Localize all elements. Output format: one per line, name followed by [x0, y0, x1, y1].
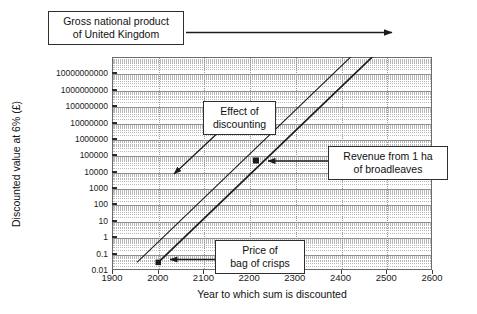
x-tick-mark [341, 270, 342, 274]
grid-line-minor [113, 209, 431, 210]
grid-line-minor [113, 69, 431, 70]
y-tick-label: 1000 [89, 184, 108, 193]
x-axis-title: Year to which sum is discounted [112, 288, 432, 300]
x-tick-mark [432, 270, 433, 274]
y-tick-mark [112, 89, 117, 91]
y-tick-mark [112, 220, 117, 222]
grid-line-vertical [296, 58, 297, 269]
grid-line-minor [113, 135, 431, 136]
x-tick-mark [203, 270, 204, 274]
y-tick-mark [112, 253, 117, 255]
y-tick-label: 10000 [84, 167, 108, 176]
y-tick-label: 10000000000 [56, 69, 108, 78]
x-axis-tick-labels: 19002000210022002300240025002600 [112, 272, 432, 286]
grid-line-minor [113, 59, 431, 60]
grid-line-major [113, 205, 431, 206]
grid-line-minor [113, 63, 431, 64]
grid-line-major [113, 189, 431, 190]
y-tick-mark [112, 105, 117, 107]
callout-effect-line2: discounting [210, 118, 269, 131]
grid-line-minor [113, 96, 431, 97]
grid-line-minor [113, 184, 431, 185]
grid-line-minor [113, 65, 431, 66]
y-tick-label: 1 [103, 233, 108, 242]
grid-line-minor [113, 217, 431, 218]
y-tick-mark [112, 171, 117, 173]
y-tick-label: 100000 [80, 151, 108, 160]
y-tick-label: 100 [94, 200, 108, 209]
grid-line-minor [113, 181, 431, 182]
grid-line-minor [113, 86, 431, 87]
callout-effect-line1: Effect of [210, 105, 269, 118]
y-tick-mark [112, 138, 117, 140]
grid-line-minor [113, 228, 431, 229]
y-tick-mark [112, 203, 117, 205]
callout-revenue-line2: of broadleaves [335, 163, 441, 176]
grid-line-minor [113, 233, 431, 234]
grid-line-vertical [250, 58, 251, 269]
y-tick-label: 1000000 [75, 134, 108, 143]
callout-crisps-line2: bag of crisps [222, 257, 298, 270]
grid-line-major [113, 74, 431, 75]
grid-line-minor [113, 194, 431, 195]
y-tick-label: 1000000000 [61, 85, 108, 94]
x-tick-mark [112, 270, 113, 274]
y-axis-tick-labels: 1000000000010000000001000000001000000010… [0, 57, 108, 270]
y-tick-label: 100000000 [65, 102, 108, 111]
callout-gross-national-product[interactable]: Gross national product of United Kingdom [48, 11, 184, 45]
grid-line-minor [113, 208, 431, 209]
grid-line-minor [113, 67, 431, 68]
grid-line-vertical [159, 58, 160, 269]
grid-line-minor [113, 62, 431, 63]
grid-line-minor [113, 198, 431, 199]
grid-line-minor [113, 83, 431, 84]
y-tick-mark [112, 154, 117, 156]
grid-line-minor [113, 97, 431, 98]
callout-crisps-line1: Price of [222, 244, 298, 257]
callout-price-bag-of-crisps[interactable]: Price of bag of crisps [215, 240, 305, 274]
grid-line-minor [113, 210, 431, 211]
grid-line-major [113, 91, 431, 92]
callout-gnp-line2: of United Kingdom [55, 28, 177, 41]
chart-figure: Discounted value at 6% (£) 1000000000010… [0, 0, 477, 314]
callout-revenue-broadleaves[interactable]: Revenue from 1 ha of broadleaves [328, 146, 448, 180]
grid-line-minor [113, 212, 431, 213]
grid-line-minor [113, 93, 431, 94]
grid-line-minor [113, 94, 431, 95]
grid-line-minor [113, 225, 431, 226]
grid-line-minor [113, 144, 431, 145]
callout-gnp-line1: Gross national product [55, 15, 177, 28]
y-tick-label: 10000000 [70, 118, 108, 127]
y-tick-mark [112, 72, 117, 74]
y-tick-label: 10 [99, 216, 108, 225]
grid-line-minor [113, 193, 431, 194]
grid-line-minor [113, 196, 431, 197]
y-tick-mark [112, 122, 117, 124]
grid-line-minor [113, 61, 431, 62]
y-tick-label: 0.1 [96, 249, 108, 258]
grid-line-minor [113, 81, 431, 82]
grid-line-minor [113, 224, 431, 225]
grid-line-minor [113, 192, 431, 193]
callout-revenue-line1: Revenue from 1 ha [335, 150, 441, 163]
y-tick-mark [112, 236, 117, 238]
grid-line-minor [113, 230, 431, 231]
grid-line-minor [113, 79, 431, 80]
x-tick-mark [386, 270, 387, 274]
x-tick-mark [158, 270, 159, 274]
grid-line-minor [113, 227, 431, 228]
grid-line-minor [113, 214, 431, 215]
grid-line-minor [113, 77, 431, 78]
callout-effect-of-discounting[interactable]: Effect of discounting [203, 101, 276, 135]
grid-line-major [113, 140, 431, 141]
grid-line-major [113, 222, 431, 223]
grid-line-minor [113, 142, 431, 143]
grid-line-minor [113, 201, 431, 202]
grid-line-minor [113, 78, 431, 79]
grid-line-vertical [204, 58, 205, 269]
y-tick-mark [112, 187, 117, 189]
